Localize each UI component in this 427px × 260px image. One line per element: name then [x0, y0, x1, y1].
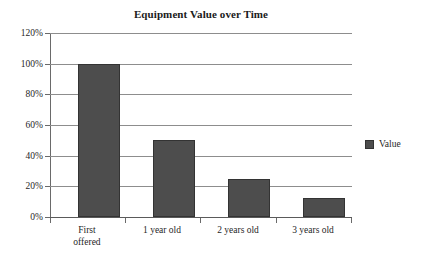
x-axis-tick [200, 218, 201, 223]
bar-3-years-old [303, 198, 345, 217]
x-axis-tick [125, 218, 126, 223]
x-axis-tick [351, 218, 352, 223]
y-axis-label: 40% [3, 151, 43, 161]
legend-label-value: Value [379, 139, 401, 149]
chart-page: Equipment Value over Time 120% 100% 80% … [0, 0, 427, 260]
plot-area [50, 33, 352, 217]
x-axis-label-line: 3 years old [268, 224, 358, 236]
x-axis-tick [50, 218, 51, 223]
x-axis-tick [276, 218, 277, 223]
y-axis-label: 0% [3, 212, 43, 222]
y-axis-label: 80% [3, 89, 43, 99]
y-axis-labels: 120% 100% 80% 60% 40% 20% 0% [0, 0, 43, 260]
chart-title: Equipment Value over Time [50, 8, 352, 20]
x-axis-label-3-years-old: 3 years old [268, 224, 358, 236]
y-axis-label: 60% [3, 120, 43, 130]
gridline [50, 33, 352, 34]
bar-first-offered [78, 64, 120, 217]
y-axis-label: 120% [3, 28, 43, 38]
bar-2-years-old [228, 179, 270, 217]
x-axis-label-line: offered [42, 236, 132, 248]
y-axis-label: 100% [3, 59, 43, 69]
legend: Value [365, 139, 401, 149]
bar-1-year-old [153, 140, 195, 217]
y-axis-label: 20% [3, 181, 43, 191]
x-axis-line [50, 217, 352, 218]
legend-swatch-value [365, 140, 374, 149]
